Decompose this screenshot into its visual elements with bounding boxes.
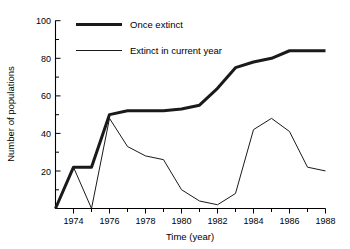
x-axis-title: Time (year) (166, 231, 214, 242)
line-chart: 100 80 60 40 20 1 (0, 0, 350, 249)
x-tick-label: 1976 (99, 216, 119, 226)
x-tick-label: 1986 (279, 216, 299, 226)
y-tick-label: 80 (41, 54, 51, 64)
y-tick-label: 60 (41, 91, 51, 101)
chart-legend: Once extinct Extinct in current year (76, 19, 222, 56)
x-tick-label: 1974 (63, 216, 83, 226)
x-tick-label: 1978 (135, 216, 155, 226)
x-axis-tick-labels: 1974 1976 1978 1980 1982 1984 1986 1988 (63, 216, 335, 226)
x-tick-label: 1988 (315, 216, 335, 226)
x-tick-label: 1980 (171, 216, 191, 226)
series-line-extinct-in-current-year (56, 118, 326, 208)
legend-label-extinct-in-current-year: Extinct in current year (130, 45, 222, 56)
y-tick-label: 20 (41, 167, 51, 177)
y-axis-title: Number of populations (5, 66, 16, 162)
x-tick-label: 1984 (243, 216, 263, 226)
x-tick-label: 1982 (207, 216, 227, 226)
y-axis-tick-labels: 100 80 60 40 20 (36, 16, 51, 176)
y-tick-label: 40 (41, 129, 51, 139)
chart-figure: 100 80 60 40 20 1 (0, 0, 350, 249)
legend-label-once-extinct: Once extinct (130, 19, 183, 30)
y-tick-label: 100 (36, 16, 51, 26)
data-series-group (56, 51, 326, 209)
